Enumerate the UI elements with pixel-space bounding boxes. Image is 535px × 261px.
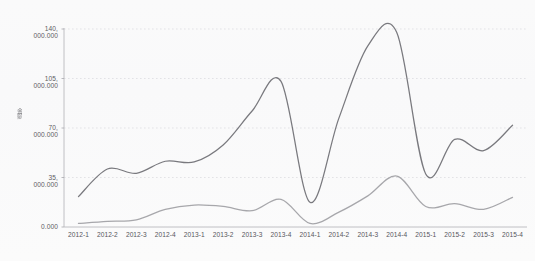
- series-line-series-upper: [78, 23, 512, 202]
- series-path-group: [78, 23, 512, 223]
- gridline-group: [64, 29, 527, 227]
- y-axis-tick-label: 105, 000.000: [12, 75, 58, 90]
- y-axis-tick-label: 0.000: [12, 223, 58, 230]
- axis-line-group: [62, 28, 65, 227]
- y-axis-tick-label: 35, 000.000: [12, 174, 58, 189]
- y-axis-tick-label: 140, 000.000: [12, 25, 58, 40]
- y-axis-tick-label: 70, 000.000: [12, 124, 58, 139]
- line-chart-figure: 金额 140, 000.000105, 000.00070, 000.00035…: [0, 0, 535, 261]
- x-axis-tick-label: 2015-4: [496, 231, 530, 238]
- series-line-series-lower: [78, 176, 512, 224]
- plot-canvas: [0, 0, 535, 261]
